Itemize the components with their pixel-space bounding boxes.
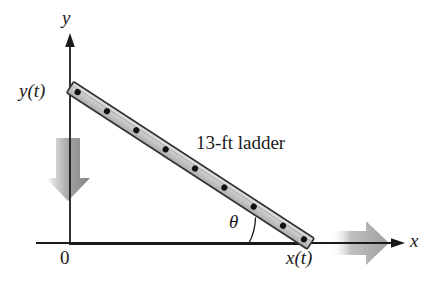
- origin-label: 0: [60, 248, 70, 267]
- angle-arc: [249, 218, 256, 244]
- ladder: [67, 82, 315, 249]
- theta-label: θ: [229, 212, 238, 231]
- ladder-length-label: 13-ft ladder: [196, 133, 285, 152]
- x-of-t-label: x(t): [286, 248, 312, 267]
- x-axis-label: x: [410, 231, 418, 250]
- y-direction-arrow: [46, 138, 90, 201]
- ladder-diagram: y x y(t) x(t) 0 θ 13-ft ladder: [0, 0, 435, 287]
- y-of-t-label: y(t): [19, 81, 45, 100]
- y-axis-label: y: [62, 8, 70, 27]
